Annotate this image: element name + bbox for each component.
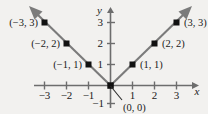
y-tick-label-pos3: 3 xyxy=(98,16,104,28)
data-point-neg3-3 xyxy=(42,20,48,26)
point-label-neg2-2: (−2, 2) xyxy=(31,38,60,50)
data-point-pos3-3 xyxy=(174,20,180,26)
curve-right-branch xyxy=(111,15,184,86)
absolute-value-graph-figure: y x −3 −2 −1 1 2 3 3 2 1 −1 (−3, 3) (−2,… xyxy=(0,0,208,114)
point-label-origin: (0, 0) xyxy=(123,102,146,114)
x-tick-label-pos3: 3 xyxy=(174,89,180,101)
point-label-pos1-1: (1, 1) xyxy=(140,59,163,71)
x-tick-label-pos1: 1 xyxy=(130,89,136,101)
origin-leader-line xyxy=(111,86,123,100)
x-tick-label-neg3: −3 xyxy=(39,89,51,101)
x-tick-label-pos2: 2 xyxy=(152,89,158,101)
x-axis-label: x xyxy=(194,85,200,97)
data-point-neg2-2 xyxy=(64,41,70,47)
point-label-pos3-3: (3, 3) xyxy=(184,17,207,29)
y-tick-label-pos2: 2 xyxy=(98,37,104,49)
data-point-neg1-1 xyxy=(86,62,92,68)
graph-canvas: y x −3 −2 −1 1 2 3 3 2 1 −1 (−3, 3) (−2,… xyxy=(0,0,208,114)
x-axis xyxy=(34,82,199,89)
point-label-neg1-1: (−1, 1) xyxy=(53,59,82,71)
point-label-pos2-2: (2, 2) xyxy=(162,38,185,50)
x-tick-label-neg2: −2 xyxy=(61,89,73,101)
data-point-pos1-1 xyxy=(130,62,136,68)
y-axis-arrowhead-icon xyxy=(107,7,114,13)
point-label-neg3-3: (−3, 3) xyxy=(9,17,38,29)
data-point-origin xyxy=(107,82,114,89)
data-point-pos2-2 xyxy=(152,41,158,47)
y-tick-label-pos1: 1 xyxy=(98,58,104,70)
y-axis-label: y xyxy=(96,4,102,16)
y-tick-label-neg1: −1 xyxy=(92,97,104,109)
